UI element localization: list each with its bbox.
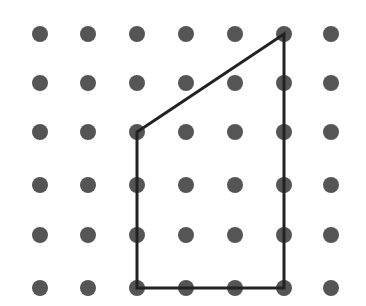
grid-dot (80, 227, 96, 243)
grid-dot (227, 75, 243, 91)
grid-dot (323, 177, 339, 193)
dot-grid-diagram (0, 0, 366, 306)
grid-dot (178, 26, 194, 42)
grid-dot (80, 26, 96, 42)
grid-dot (32, 227, 48, 243)
grid-dot (80, 177, 96, 193)
grid-dot (32, 280, 48, 296)
grid-dot (323, 124, 339, 140)
trapezoid-polygon (137, 34, 284, 288)
grid-dot (227, 227, 243, 243)
grid-dot (129, 26, 145, 42)
grid-dot (178, 75, 194, 91)
grid-dots (32, 26, 339, 296)
grid-dot (323, 280, 339, 296)
grid-dot (323, 75, 339, 91)
grid-dot (80, 280, 96, 296)
grid-dot (32, 26, 48, 42)
grid-dot (178, 177, 194, 193)
grid-dot (32, 124, 48, 140)
grid-dot (32, 75, 48, 91)
grid-dot (178, 227, 194, 243)
grid-dot (80, 75, 96, 91)
grid-dot (323, 227, 339, 243)
grid-dot (80, 124, 96, 140)
grid-dot (227, 177, 243, 193)
grid-dot (227, 26, 243, 42)
grid-dot (323, 26, 339, 42)
grid-dot (178, 124, 194, 140)
grid-dot (32, 177, 48, 193)
grid-dot (129, 75, 145, 91)
grid-dot (227, 124, 243, 140)
